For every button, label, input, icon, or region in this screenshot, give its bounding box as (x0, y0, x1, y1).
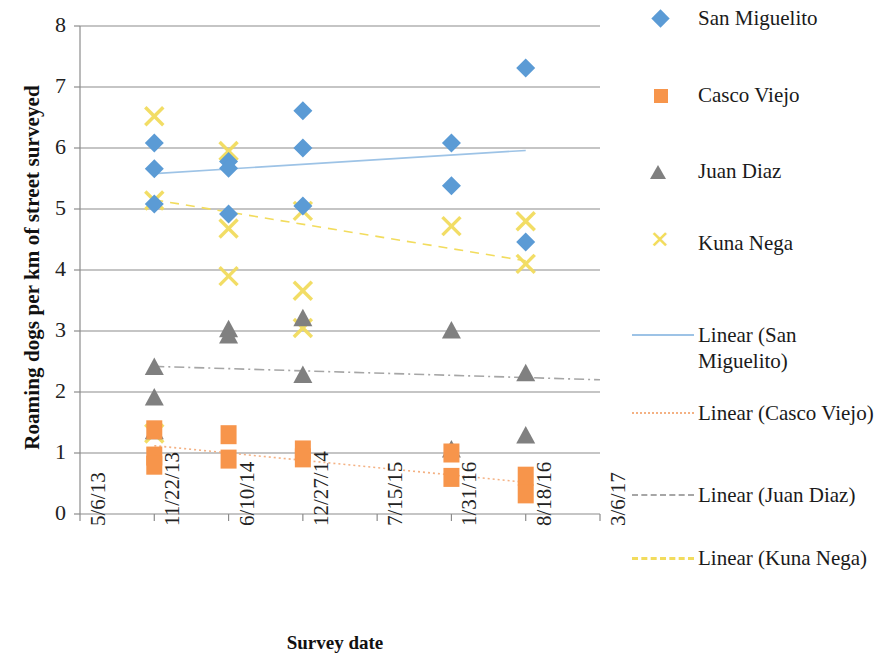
chart-container: Roaming dogs per km of street surveyed 8… (0, 0, 894, 665)
solid-line-icon (632, 334, 694, 336)
data-point-square (146, 420, 162, 439)
triangle-marker (630, 158, 698, 184)
x-marker: ✕ (630, 230, 698, 256)
legend-item[interactable]: Linear (San Miguelito) (630, 322, 894, 374)
x-axis-tick-label: 3/6/17 (608, 472, 629, 526)
x-axis-tick-label: 8/18/16 (534, 462, 555, 526)
data-point-diamond (516, 232, 535, 251)
data-point-diamond (516, 59, 535, 78)
trendline (154, 150, 525, 173)
data-point-x (220, 142, 238, 160)
dotted-line (630, 400, 698, 426)
data-point-diamond (145, 195, 164, 214)
dashed-line (630, 545, 698, 571)
y-axis-tick-label: 2 (26, 380, 66, 402)
y-axis-tick-label: 4 (26, 258, 66, 280)
x-axis-tick-label: 7/15/15 (385, 462, 406, 526)
trendline (154, 200, 525, 261)
x-axis-tick-label: 12/27/14 (311, 451, 332, 526)
data-point-triangle (516, 426, 535, 444)
y-axis-tick-label: 6 (26, 136, 66, 158)
x-axis-tick-label: 11/22/13 (162, 452, 183, 526)
data-point-diamond (219, 159, 238, 178)
data-point-triangle (145, 358, 164, 376)
data-point-x (294, 319, 312, 337)
dashdot-line-icon (632, 494, 694, 496)
series-kuna-nega (145, 107, 534, 442)
dashdot-line (630, 482, 698, 508)
solid-line (630, 322, 698, 348)
data-point-x (294, 202, 312, 220)
data-point-x (517, 212, 535, 230)
legend-label: Kuna Nega (698, 230, 793, 256)
series-san-miguelito (145, 59, 535, 252)
x-axis-title: Survey date (80, 632, 590, 654)
y-axis-tick-label: 3 (26, 319, 66, 341)
diamond-marker (630, 5, 698, 31)
data-point-triangle (442, 321, 461, 339)
legend-item[interactable]: ✕Kuna Nega (630, 230, 894, 256)
legend-label: Casco Viejo (698, 82, 800, 108)
data-point-x (145, 107, 163, 125)
data-point-x (517, 255, 535, 273)
data-point-diamond (219, 152, 238, 171)
data-point-triangle (516, 364, 535, 382)
data-point-triangle (219, 326, 238, 344)
series-juan-diaz (145, 309, 535, 458)
data-point-x (220, 267, 238, 285)
y-axis-tick-label: 8 (26, 14, 66, 36)
trendline (154, 366, 600, 379)
data-point-triangle (293, 309, 312, 327)
x-axis-tick-label: 6/10/14 (237, 462, 258, 526)
square-marker (630, 82, 698, 108)
data-point-diamond (145, 134, 164, 153)
chart-legend: San MiguelitoCasco ViejoJuan Diaz✕Kuna N… (630, 0, 894, 620)
data-point-square (221, 425, 237, 444)
legend-label: Linear (Kuna Nega) (698, 545, 867, 571)
legend-item[interactable]: Casco Viejo (630, 82, 894, 108)
data-point-diamond (442, 134, 461, 153)
legend-item[interactable]: Linear (Kuna Nega) (630, 545, 894, 571)
data-point-triangle (145, 388, 164, 406)
x-axis-tick-label: 5/6/13 (88, 472, 109, 526)
legend-label: San Miguelito (698, 5, 818, 31)
legend-label: Linear (Casco Viejo) (698, 400, 874, 426)
y-axis-tick-label: 5 (26, 197, 66, 219)
legend-label: Juan Diaz (698, 158, 781, 184)
data-point-x (294, 282, 312, 300)
x-axis-tick-label: 1/31/16 (459, 462, 480, 526)
data-point-square (443, 444, 459, 463)
square-icon (654, 89, 668, 103)
data-point-x (145, 191, 163, 209)
triangle-icon (650, 165, 666, 179)
data-point-diamond (145, 159, 164, 178)
legend-item[interactable]: Linear (Juan Diaz) (630, 482, 894, 508)
data-point-x (220, 220, 238, 238)
legend-label: Linear (Juan Diaz) (698, 482, 855, 508)
legend-item[interactable]: Juan Diaz (630, 158, 894, 184)
data-point-diamond (442, 176, 461, 195)
data-point-x (145, 424, 163, 442)
legend-label: Linear (San Miguelito) (698, 322, 888, 374)
data-point-diamond (293, 196, 312, 215)
dotted-line-icon (632, 412, 694, 414)
legend-item[interactable]: Linear (Casco Viejo) (630, 400, 894, 426)
x-icon: ✕ (650, 232, 670, 248)
y-axis-tick-label: 0 (26, 502, 66, 524)
data-point-triangle (145, 422, 164, 440)
data-point-triangle (442, 440, 461, 458)
y-axis-tick-label: 7 (26, 75, 66, 97)
data-point-triangle (293, 366, 312, 384)
data-point-x (442, 217, 460, 235)
data-point-diamond (219, 204, 238, 223)
y-axis-tick-label: 1 (26, 441, 66, 463)
data-point-diamond (293, 139, 312, 158)
diamond-icon (651, 9, 669, 27)
data-point-triangle (219, 320, 238, 338)
data-point-diamond (293, 101, 312, 120)
dashed-line-icon (632, 557, 694, 560)
legend-item[interactable]: San Miguelito (630, 5, 894, 31)
